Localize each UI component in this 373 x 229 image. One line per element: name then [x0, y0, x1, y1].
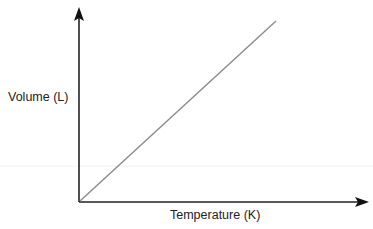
chart-plot [0, 0, 373, 229]
data-line [80, 21, 276, 201]
y-axis-label: Volume (L) [8, 90, 68, 104]
x-axis-label: Temperature (K) [170, 208, 260, 222]
chart-canvas: Volume (L) Temperature (K) [0, 0, 373, 229]
